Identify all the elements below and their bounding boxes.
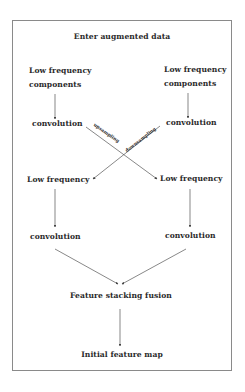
left-input-label-line1: Low frequency <box>29 67 92 75</box>
left-low-frequency: Low frequency <box>27 176 90 184</box>
right-input-label-line1: Low frequency <box>164 66 227 74</box>
left-input-label-line2: components <box>29 81 81 89</box>
initial-feature-map: Initial feature map <box>81 351 163 359</box>
left-convolution-1: convolution <box>32 120 83 128</box>
right-low-frequency: Low frequency <box>160 175 223 183</box>
feature-stacking-fusion: Feature stacking fusion <box>70 292 172 300</box>
right-convolution-1: convolution <box>166 119 217 127</box>
right-input-label-line2: components <box>164 80 216 88</box>
right-convolution-2: convolution <box>165 232 216 240</box>
input-title: Enter augmented data <box>74 33 170 41</box>
connector-arrows <box>0 0 245 392</box>
left-convolution-2: convolution <box>30 233 81 241</box>
